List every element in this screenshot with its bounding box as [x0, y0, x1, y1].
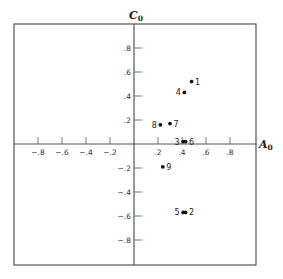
- data-point-8: [159, 123, 163, 127]
- point-label-9: 9: [166, 163, 171, 172]
- y-tick-label: .6: [124, 68, 131, 77]
- y-tick-label: −.4: [118, 188, 132, 197]
- y-tick-label: −.2: [118, 164, 132, 173]
- y-tick-label: −.6: [118, 212, 132, 221]
- x-tick-label: −.8: [31, 148, 45, 157]
- x-tick-label: −.6: [55, 148, 69, 157]
- data-point-5: [181, 211, 185, 215]
- x-tick-label: .8: [226, 148, 233, 157]
- data-point-9: [161, 165, 165, 169]
- point-label-6: 6: [189, 138, 194, 147]
- data-point-4: [183, 91, 187, 95]
- point-label-8: 8: [152, 121, 157, 130]
- scatter-chart: −.8−.6−.4−.2.2.4.6.8.8.6.4.2−.2−.4−.6−.8…: [0, 0, 283, 279]
- y-tick-label: .2: [124, 116, 131, 125]
- point-label-5: 5: [175, 208, 180, 217]
- x-tick-label: .2: [154, 148, 161, 157]
- x-tick-label: .6: [202, 148, 209, 157]
- point-label-4: 4: [176, 88, 181, 97]
- point-label-3: 3: [175, 138, 180, 147]
- x-tick-label: −.4: [79, 148, 93, 157]
- x-axis-title: A0: [258, 138, 273, 152]
- x-tick-label: .4: [178, 148, 185, 157]
- point-label-2: 2: [189, 208, 194, 217]
- x-tick-label: −.2: [103, 148, 117, 157]
- y-tick-label: .4: [124, 92, 131, 101]
- data-point-6: [184, 140, 188, 144]
- point-label-1: 1: [195, 78, 200, 87]
- axes: [14, 24, 256, 265]
- data-point-1: [190, 80, 194, 84]
- y-tick-label: −.8: [118, 236, 132, 245]
- y-tick-label: .8: [124, 44, 131, 53]
- point-label-7: 7: [174, 120, 179, 129]
- data-point-7: [168, 122, 172, 126]
- y-axis-title: C0: [129, 9, 143, 23]
